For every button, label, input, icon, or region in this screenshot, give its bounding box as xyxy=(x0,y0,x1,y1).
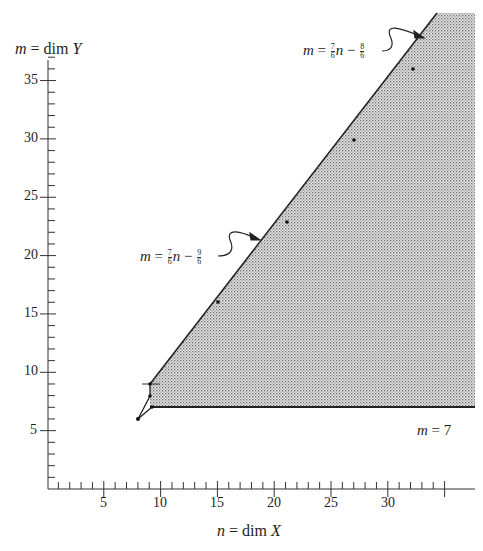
fraction-seven-sixths: 76 xyxy=(168,249,172,266)
x-tick-label: 10 xyxy=(153,495,167,511)
ann-minus: − xyxy=(180,248,196,264)
shaded-region xyxy=(150,13,475,407)
initial-segment-lower xyxy=(138,407,152,419)
y-tick-label: 5 xyxy=(30,422,37,438)
y-tick-label: 20 xyxy=(24,247,38,263)
annotation-m-equals-7: m = 7 xyxy=(417,422,451,439)
x-axis-var: n xyxy=(217,522,225,539)
x-tick-label: 15 xyxy=(210,495,224,511)
annotation-upper-line-equation: m = 76n − 86 xyxy=(303,42,365,60)
y-tick-label: 15 xyxy=(24,305,38,321)
ann-var-m: m xyxy=(140,248,151,264)
ann-eq: = xyxy=(314,42,330,58)
x-tick-label: 30 xyxy=(381,495,395,511)
fraction-nine-sixths: 96 xyxy=(197,249,201,266)
fraction-seven-sixths: 76 xyxy=(331,43,335,60)
y-axis-title: m = dim Y xyxy=(15,40,81,58)
ann-var-m: m xyxy=(417,422,428,438)
x-axis-eq: = dim xyxy=(225,522,271,539)
ann-minus: − xyxy=(343,42,359,58)
x-axis-set: X xyxy=(271,522,281,539)
ann-var-m: m xyxy=(303,42,314,58)
ann-eq: = xyxy=(151,248,167,264)
x-tick-label: 25 xyxy=(324,495,338,511)
x-tick-label: 5 xyxy=(100,495,107,511)
chart-canvas xyxy=(0,0,483,551)
y-axis-set: Y xyxy=(72,40,81,57)
x-tick-label: 20 xyxy=(267,495,281,511)
y-tick-label: 35 xyxy=(24,72,38,88)
y-axis-var: m xyxy=(15,40,27,57)
y-tick-label: 30 xyxy=(24,130,38,146)
annotation-lower-line-equation: m = 76n − 96 xyxy=(140,248,202,266)
y-tick-label: 25 xyxy=(24,188,38,204)
ann-value: = 7 xyxy=(428,422,451,438)
y-axis-eq: = dim xyxy=(27,40,73,57)
fraction-eight-sixths: 86 xyxy=(360,43,364,60)
y-tick-label: 10 xyxy=(24,363,38,379)
x-axis-title: n = dim X xyxy=(217,522,281,540)
